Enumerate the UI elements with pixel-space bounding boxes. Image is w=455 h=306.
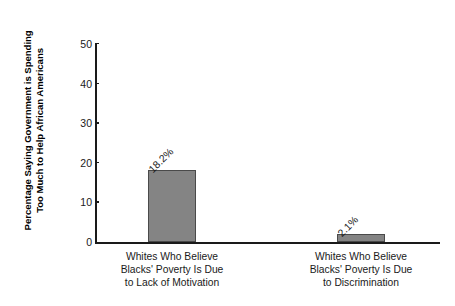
y-axis-line — [95, 44, 97, 244]
y-tick-mark — [95, 122, 99, 123]
y-tick-label: 50 — [66, 39, 92, 50]
y-tick-mark — [95, 162, 99, 163]
category-label: Whites Who Believe Blacks' Poverty Is Du… — [82, 250, 262, 290]
y-tick-mark — [95, 43, 99, 44]
y-tick-label: 20 — [66, 158, 92, 169]
y-tick-label: 30 — [66, 118, 92, 129]
x-axis-line — [95, 242, 440, 244]
y-tick-mark — [95, 201, 99, 202]
y-tick-mark — [95, 83, 99, 84]
y-tick-label: 40 — [66, 79, 92, 90]
bar — [148, 170, 196, 242]
category-label: Whites Who Believe Blacks' Poverty Is Du… — [271, 250, 451, 290]
bar-chart: Percentage Saying Government is Spending… — [0, 0, 455, 306]
y-tick-label: 0 — [66, 237, 92, 248]
y-tick-label: 10 — [66, 197, 92, 208]
y-axis-title: Percentage Saying Government is Spending… — [22, 10, 47, 250]
